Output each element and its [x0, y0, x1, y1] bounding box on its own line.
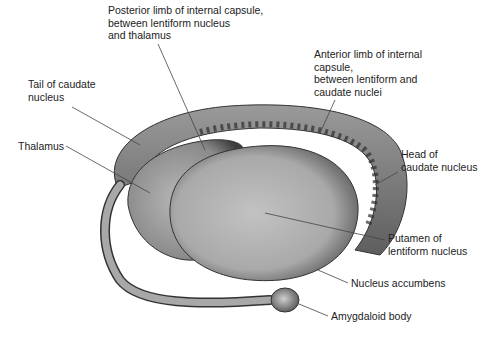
amygdaloid-body-shape [271, 288, 299, 312]
putamen-shape [170, 146, 358, 281]
label-nucleus-accumbens: Nucleus accumbens [351, 277, 446, 290]
label-posterior-limb: Posterior limb of internal capsule, betw… [108, 4, 263, 42]
label-tail-caudate: Tail of caudate nucleus [28, 78, 96, 103]
label-anterior-limb: Anterior limb of internal capsule, betwe… [314, 48, 422, 98]
label-thalamus: Thalamus [18, 140, 64, 153]
label-putamen: Putamen of lentiform nucleus [388, 232, 467, 257]
label-amygdaloid-body: Amygdaloid body [331, 310, 412, 323]
label-head-caudate: Head of caudate nucleus [401, 148, 477, 173]
